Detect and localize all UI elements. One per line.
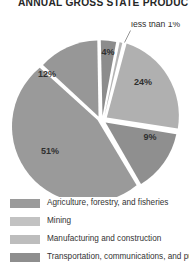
chart-title: ANNUAL GROSS STATE PRODUCT — [18, 0, 189, 8]
legend-swatch-manufacturing — [10, 235, 40, 244]
chart-figure: ANNUAL GROSS STATE PRODUCT 12% 51% 4% 24… — [0, 0, 189, 271]
pie-chart-svg: 12% 51% 4% 24% 9% less than 1% — [0, 22, 189, 197]
pie-label-51: 51% — [41, 146, 59, 156]
pie-label-12: 12% — [38, 69, 56, 79]
legend-label-manufacturing: Manufacturing and construction — [47, 232, 161, 246]
legend-item-manufacturing[interactable]: Manufacturing and construction — [0, 232, 189, 250]
less-than-1-leader-line — [125, 31, 131, 43]
legend-label-transportation: Transportation, communications, and publ — [47, 250, 189, 264]
pie-chart-area: 12% 51% 4% 24% 9% less than 1% — [0, 22, 189, 197]
legend-label-agriculture: Agriculture, forestry, and fisheries — [47, 196, 168, 210]
legend-item-transportation[interactable]: Transportation, communications, and publ — [0, 250, 189, 268]
legend-swatch-transportation — [10, 253, 40, 262]
pie-label-24: 24% — [134, 77, 152, 87]
chart-legend: Agriculture, forestry, and fisheries Min… — [0, 196, 189, 268]
legend-label-mining: Mining — [47, 214, 71, 228]
legend-swatch-agriculture — [10, 199, 40, 208]
legend-item-agriculture[interactable]: Agriculture, forestry, and fisheries — [0, 196, 189, 214]
legend-item-mining[interactable]: Mining — [0, 214, 189, 232]
pie-label-9: 9% — [143, 132, 156, 142]
pie-label-4: 4% — [101, 47, 114, 57]
legend-swatch-mining — [10, 217, 40, 226]
pie-label-less-than-1: less than 1% — [131, 22, 181, 29]
